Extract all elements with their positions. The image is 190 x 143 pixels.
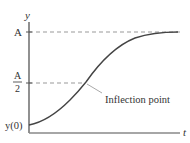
y-axis-label: y [24,9,30,21]
initial-value-label: y(0) [5,120,23,132]
half-numerator: A [14,70,22,81]
half-denominator: 2 [15,83,20,94]
logistic-diagram: y t A A 2 y(0) Inflection point [0,0,190,143]
inflection-point-label: Inflection point [105,94,170,105]
inflection-pointer [87,84,102,93]
level-A-label: A [14,26,22,38]
t-axis-label: t [183,126,187,138]
logistic-curve [29,32,178,125]
